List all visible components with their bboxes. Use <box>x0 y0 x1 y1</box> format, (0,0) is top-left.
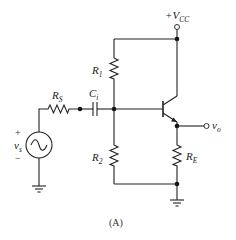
resistor-r2 <box>110 109 118 184</box>
re-label: RE <box>185 150 198 165</box>
vo-label: vo <box>212 119 221 134</box>
resistor-r1 <box>110 39 118 109</box>
circuit-diagram: +VCC R1 Ci RS + vs − R2 <box>0 0 236 240</box>
figure-caption: (A) <box>109 217 123 229</box>
vcc-terminal <box>175 25 180 30</box>
r2-label: R2 <box>91 151 103 166</box>
rs-label: RS <box>51 89 63 104</box>
r1-label: R1 <box>91 64 102 79</box>
vs-label: vs <box>14 139 22 154</box>
plus-sign: + <box>15 127 21 138</box>
output-terminal <box>204 124 209 129</box>
ground-icon-main <box>170 200 184 206</box>
npn-transistor <box>163 96 177 122</box>
resistor-re <box>173 126 181 184</box>
minus-sign: − <box>15 153 21 164</box>
ci-label: Ci <box>89 87 98 102</box>
resistor-rs <box>39 105 80 132</box>
sine-icon <box>31 140 47 151</box>
vcc-label: +VCC <box>165 9 190 24</box>
ground-icon-source <box>32 186 46 192</box>
